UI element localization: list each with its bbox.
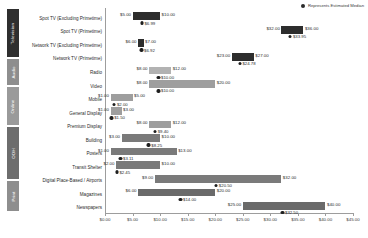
bar-high-value: $12.00	[171, 120, 186, 125]
bar-low-value: $6.00	[126, 39, 139, 44]
category-label: Building	[86, 137, 102, 142]
x-axis-tick-label: $10.00	[153, 217, 166, 222]
bar-low-value: $32.00	[266, 26, 281, 31]
bar-high-value: $27.00	[254, 53, 269, 58]
median-marker: $32.50	[281, 210, 299, 215]
x-axis-tick-label: $45.00	[346, 217, 359, 222]
category-group-rail: Television Audio Online OOH Print	[7, 9, 19, 211]
range-bar[interactable]	[281, 26, 303, 34]
group-tab-online[interactable]: Online	[7, 87, 19, 125]
bar-low-value: $9.00	[142, 175, 155, 180]
bar-high-value: $10.00	[160, 134, 175, 139]
bar-low-value: $3.00	[109, 134, 122, 139]
bar-high-value: $12.00	[171, 66, 186, 71]
median-value-label: $32.50	[285, 210, 298, 215]
range-bar[interactable]	[122, 134, 161, 142]
group-label-ooh: OOH	[10, 148, 15, 159]
bar-high-value: $40.00	[325, 202, 340, 207]
x-axis-tick	[353, 213, 354, 216]
category-label: Premium Display	[67, 124, 102, 129]
bar-low-value: $8.00	[137, 120, 150, 125]
bar-low-value: $1.00	[98, 148, 111, 153]
category-label: Network TV (Primetime)	[53, 56, 102, 61]
category-label: Magazines	[80, 191, 102, 196]
range-bar[interactable]	[111, 107, 122, 115]
range-bar[interactable]	[111, 94, 133, 102]
bar-low-value: $2.00	[104, 161, 117, 166]
category-label: Spot TV (Excluding Primetime)	[39, 15, 102, 20]
category-label: Transit Shelter	[72, 164, 102, 169]
bar-low-value: $8.00	[137, 80, 150, 85]
group-label-print: Print	[11, 191, 16, 201]
group-label-online: Online	[11, 99, 16, 113]
bar-low-value: $23.00	[217, 53, 232, 58]
group-label-television: Television	[11, 22, 16, 43]
group-tab-audio[interactable]: Audio	[7, 59, 19, 85]
bar-low-value: $8.00	[137, 66, 150, 71]
plot-area: $0.00$5.00$10.00$15.00$20.00$25.00$30.00…	[105, 8, 353, 213]
bar-high-value: $10.00	[160, 12, 175, 17]
bar-high-value: $20.00	[215, 188, 230, 193]
group-tab-print[interactable]: Print	[7, 181, 19, 211]
range-bar[interactable]	[149, 67, 171, 75]
bar-low-value: $1.00	[98, 107, 111, 112]
bar-high-value: $7.00	[144, 39, 157, 44]
group-tab-television[interactable]: Television	[7, 9, 19, 57]
range-bar[interactable]	[149, 121, 171, 129]
category-label: Spot TV (Primetime)	[60, 29, 102, 34]
x-axis-tick-label: $20.00	[209, 217, 222, 222]
bar-high-value: $20.00	[215, 80, 230, 85]
range-bar[interactable]	[133, 12, 161, 20]
x-axis-tick-label: $0.00	[100, 217, 111, 222]
median-dot-icon	[281, 211, 284, 214]
range-bar[interactable]	[232, 53, 254, 61]
category-label: Radio	[90, 69, 102, 74]
bar-high-value: $13.00	[177, 148, 192, 153]
category-label: Network TV (Excluding Primetime)	[32, 42, 102, 47]
category-label: Video	[90, 83, 102, 88]
x-axis-tick-label: $40.00	[319, 217, 332, 222]
bar-high-value: $10.00	[160, 161, 175, 166]
range-bar[interactable]	[155, 175, 282, 183]
bar-high-value: $3.00	[122, 107, 135, 112]
range-bar[interactable]	[243, 202, 326, 210]
median-dot-icon	[301, 4, 305, 8]
bar-low-value: $25.00	[228, 202, 243, 207]
x-axis-tick-label: $35.00	[291, 217, 304, 222]
range-bar[interactable]	[138, 189, 215, 197]
group-label-audio: Audio	[11, 66, 16, 78]
group-tab-ooh[interactable]: OOH	[7, 127, 19, 179]
bar-high-value: $5.00	[133, 93, 146, 98]
bar-low-value: $1.00	[98, 93, 111, 98]
bar-low-value: $6.00	[126, 188, 139, 193]
bar-low-value: $5.00	[120, 12, 133, 17]
category-label: Digital Place-Based / Airports	[43, 178, 103, 183]
bar-high-value: $36.00	[303, 26, 318, 31]
x-axis-tick-label: $15.00	[181, 217, 194, 222]
x-axis-tick-label: $30.00	[264, 217, 277, 222]
range-bar[interactable]	[116, 161, 160, 169]
x-axis-tick-label: $25.00	[236, 217, 249, 222]
chart-row: Newspapers$25.00$40.00$32.50	[105, 200, 353, 216]
bar-high-value: $32.00	[281, 175, 296, 180]
range-bar[interactable]	[149, 80, 215, 88]
x-axis-tick-label: $5.00	[127, 217, 138, 222]
chart-root: Represents Estimated Median Television A…	[0, 0, 368, 238]
range-bar[interactable]	[111, 148, 177, 156]
category-label: Newspapers	[76, 205, 102, 210]
